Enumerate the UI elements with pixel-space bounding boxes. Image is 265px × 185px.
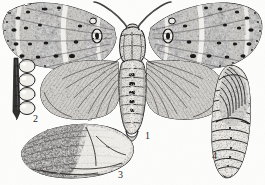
figure-label-3: 3: [118, 170, 123, 180]
figure-label-1: 1: [145, 131, 150, 141]
illustration-plate: 1 2 3 4: [0, 0, 265, 185]
moth-life-history-drawing: [0, 0, 265, 185]
figure-label-2: 2: [33, 114, 38, 124]
figure-label-4: 4: [212, 151, 217, 161]
paper-grain-overlay: [0, 0, 265, 185]
